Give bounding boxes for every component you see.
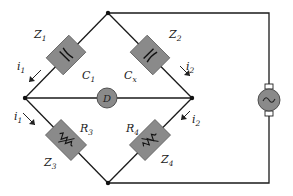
arrow-i1-bottom: i1: [14, 110, 35, 125]
node-right: [190, 96, 194, 100]
label-z3: Z3: [43, 156, 57, 171]
label-z1: Z1: [33, 28, 46, 43]
component-z4: R4 Z4: [125, 119, 174, 168]
label-z4: Z4: [160, 153, 174, 168]
label-i1-top: i1: [17, 60, 25, 75]
component-z2: Z2 Cx: [124, 28, 182, 84]
arrow-i1-top: i1: [17, 60, 41, 82]
detector: D: [97, 88, 117, 108]
ac-source: [258, 84, 280, 116]
label-c1: C1: [82, 69, 95, 84]
label-i2-top: i2: [186, 60, 195, 75]
component-z3: R3 Z3: [43, 119, 93, 171]
node-bottom: [106, 181, 110, 185]
bridge-circuit-diagram: Z1 C1 Z2 Cx R3 Z3 R4 Z4 D: [0, 0, 293, 196]
node-left: [23, 96, 27, 100]
label-r4: R4: [125, 122, 139, 137]
label-i2-bottom: i2: [192, 113, 201, 128]
arrow-i2-bottom: i2: [181, 111, 201, 128]
label-cx: Cx: [124, 69, 137, 84]
node-top: [106, 11, 110, 15]
label-r3: R3: [79, 122, 93, 137]
arrow-i2-top: i2: [180, 60, 195, 76]
label-i1-bottom: i1: [14, 110, 22, 125]
label-detector: D: [102, 93, 111, 104]
label-z2: Z2: [168, 28, 182, 43]
